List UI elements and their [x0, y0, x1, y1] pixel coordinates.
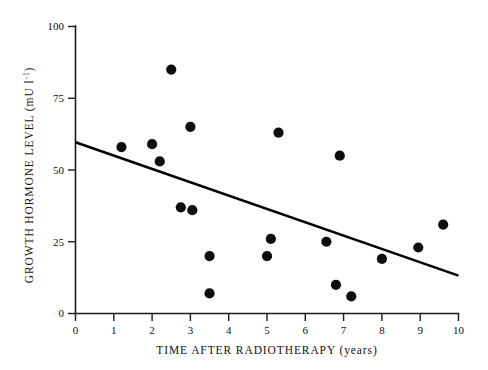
x-tick-label-9: 9: [417, 324, 423, 336]
x-tick-label-4: 4: [226, 324, 232, 336]
data-point: [273, 128, 283, 138]
data-point: [346, 291, 356, 301]
x-axis-title: TIME AFTER RADIOTHERAPY (years): [156, 344, 377, 357]
chart-figure: GROWTH HORMONE LEVEL (mU l-1) 100 75 50 …: [0, 0, 488, 370]
data-point: [262, 251, 272, 261]
y-tick-label-75: 75: [53, 92, 65, 104]
y-tick-label-25: 25: [53, 236, 65, 248]
data-point: [204, 251, 214, 261]
data-point: [266, 234, 276, 244]
y-tick-label-100: 100: [48, 20, 65, 32]
y-axis-title-tail: ): [23, 67, 36, 72]
x-tick-label-8: 8: [379, 324, 385, 336]
data-point: [155, 156, 165, 166]
x-axis-ticks: [76, 314, 459, 322]
y-axis-title-text: GROWTH HORMONE LEVEL (mU l: [23, 80, 36, 284]
y-tick-label-0: 0: [59, 307, 65, 319]
data-point: [116, 142, 126, 152]
data-point: [185, 122, 195, 132]
data-point: [166, 64, 176, 74]
y-tick-label-50: 50: [53, 164, 65, 176]
x-tick-label-1: 1: [111, 324, 117, 336]
data-point: [176, 202, 186, 212]
x-tick-labels: 0 1 2 3 4 5 6 7 8 9 10: [73, 324, 465, 336]
data-point: [331, 280, 341, 290]
y-axis-title: GROWTH HORMONE LEVEL (mU l-1): [22, 67, 36, 284]
data-point: [377, 254, 387, 264]
y-axis-title-exponent: -1: [22, 71, 31, 79]
scatter-points-group: [116, 64, 448, 301]
x-tick-label-3: 3: [188, 324, 194, 336]
data-point: [335, 151, 345, 161]
x-tick-label-7: 7: [341, 324, 347, 336]
y-axis-ticks: [68, 27, 76, 314]
data-point: [204, 288, 214, 298]
data-point: [187, 205, 197, 215]
data-point: [321, 237, 331, 247]
x-tick-label-0: 0: [73, 324, 79, 336]
x-tick-label-10: 10: [453, 324, 465, 336]
x-tick-label-5: 5: [264, 324, 270, 336]
scatter-plot: GROWTH HORMONE LEVEL (mU l-1) 100 75 50 …: [0, 0, 488, 370]
data-point: [147, 139, 157, 149]
y-tick-labels: 100 75 50 25 0: [48, 20, 65, 319]
data-point: [438, 219, 448, 229]
x-tick-label-6: 6: [303, 324, 309, 336]
x-tick-label-2: 2: [149, 324, 155, 336]
data-point: [413, 242, 423, 252]
